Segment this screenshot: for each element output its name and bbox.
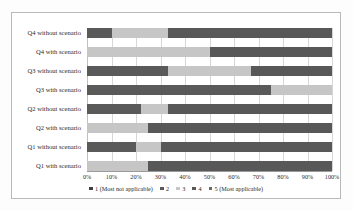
bar-segment[interactable] — [87, 142, 136, 152]
x-axis-tick-label: 10% — [106, 173, 117, 180]
bar-segment[interactable] — [87, 47, 210, 57]
x-axis-tick-label: 90% — [302, 173, 313, 180]
x-axis-tick-label: 50% — [204, 173, 215, 180]
bar-segment[interactable] — [112, 28, 168, 38]
y-axis-labels: Q4 without scenarioQ4 with scenarioQ3 wi… — [12, 28, 85, 171]
bar-segment[interactable] — [168, 104, 332, 114]
bar-row[interactable] — [87, 123, 332, 133]
x-axis-tick-label: 20% — [130, 173, 141, 180]
bar-segment[interactable] — [87, 28, 112, 38]
x-axis-tick-label: 0% — [83, 173, 91, 180]
bar-segment[interactable] — [141, 104, 168, 114]
x-axis-line — [87, 171, 332, 172]
bar-segment[interactable] — [136, 142, 161, 152]
x-axis-tick-label: 30% — [155, 173, 166, 180]
y-axis-label: Q3 with scenario — [12, 85, 85, 95]
x-axis-tick-label: 60% — [228, 173, 239, 180]
bar-segment[interactable] — [210, 47, 333, 57]
legend-item[interactable]: 1 (Most not applicable) — [89, 185, 153, 192]
bar-segment[interactable] — [148, 123, 332, 133]
bar-segment[interactable] — [251, 66, 332, 76]
bar-segment[interactable] — [87, 85, 271, 95]
y-axis-label: Q1 with scenario — [12, 161, 85, 171]
chart-frame: Q4 without scenarioQ4 with scenarioQ3 wi… — [11, 12, 341, 199]
x-axis-tick-label: 80% — [277, 173, 288, 180]
bar-segment[interactable] — [87, 161, 148, 171]
x-axis-tick-label: 100% — [325, 173, 339, 180]
legend-label: 3 — [182, 185, 185, 192]
bar-row[interactable] — [87, 161, 332, 171]
legend-label: 2 — [166, 185, 169, 192]
bar-row[interactable] — [87, 85, 332, 95]
plot-area — [87, 28, 332, 171]
y-axis-label: Q4 without scenario — [12, 28, 85, 38]
bar-row[interactable] — [87, 104, 332, 114]
bar-segment[interactable] — [87, 66, 168, 76]
bar-segment[interactable] — [271, 85, 332, 95]
bar-row[interactable] — [87, 28, 332, 38]
x-axis-labels: 0%10%20%30%40%50%60%70%80%90%100% — [87, 173, 332, 185]
x-axis-tick-label: 70% — [253, 173, 264, 180]
legend-swatch-icon — [160, 187, 164, 191]
bar-segment[interactable] — [168, 28, 332, 38]
chart-page: Q4 without scenarioQ4 with scenarioQ3 wi… — [0, 0, 353, 211]
bar-segment[interactable] — [168, 66, 251, 76]
y-axis-label: Q2 with scenario — [12, 123, 85, 133]
y-axis-label: Q1 without scenario — [12, 142, 85, 152]
legend-swatch-icon — [89, 187, 93, 191]
bar-row[interactable] — [87, 66, 332, 76]
bar-series-group — [87, 28, 332, 171]
legend-label: 4 — [198, 185, 201, 192]
y-axis-label: Q3 without scenario — [12, 66, 85, 76]
chart-legend: 1 (Most not applicable)2345 (Most applic… — [12, 185, 340, 192]
legend-swatch-icon — [192, 187, 196, 191]
bar-row[interactable] — [87, 47, 332, 57]
bar-segment[interactable] — [87, 104, 141, 114]
legend-item[interactable]: 2 — [160, 185, 169, 192]
legend-item[interactable]: 5 (Most applicable) — [209, 185, 264, 192]
bar-row[interactable] — [87, 142, 332, 152]
bar-segment[interactable] — [87, 123, 148, 133]
legend-item[interactable]: 4 — [192, 185, 201, 192]
bar-segment[interactable] — [148, 161, 332, 171]
legend-item[interactable]: 3 — [176, 185, 185, 192]
bar-segment[interactable] — [161, 142, 333, 152]
legend-label: 5 (Most applicable) — [215, 185, 263, 192]
x-axis-tick-label: 40% — [179, 173, 190, 180]
legend-swatch-icon — [176, 187, 180, 191]
legend-label: 1 (Most not applicable) — [95, 185, 153, 192]
y-axis-label: Q4 with scenario — [12, 47, 85, 57]
y-axis-label: Q2 without scenario — [12, 104, 85, 114]
legend-swatch-icon — [209, 187, 213, 191]
gridline — [332, 28, 333, 171]
